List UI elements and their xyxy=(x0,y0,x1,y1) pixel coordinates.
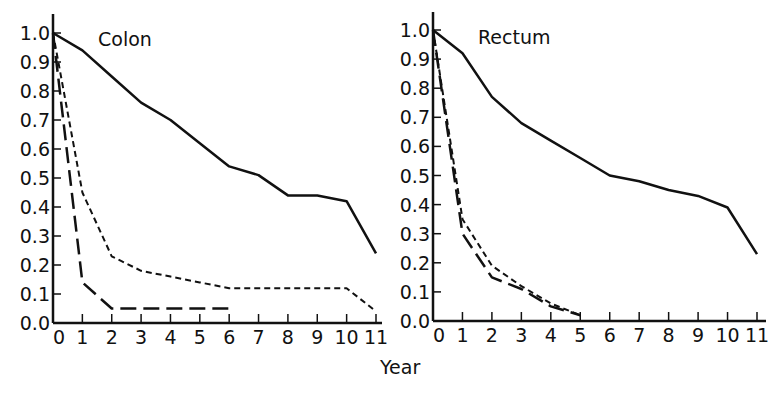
y-tick-label: 0.0 xyxy=(20,312,50,334)
x-tick-label: 8 xyxy=(282,326,294,348)
y-tick-label: 1.0 xyxy=(400,19,430,41)
x-tick-label: 8 xyxy=(663,324,675,346)
chart-title: Colon xyxy=(98,28,152,50)
y-tick-label: 0.3 xyxy=(20,225,50,247)
x-tick-label: 3 xyxy=(135,326,147,348)
series-short-dash-line xyxy=(53,33,376,311)
rectum-chart: 0.00.10.20.30.40.50.60.70.80.91.00123456… xyxy=(400,12,769,346)
x-tick-label: 6 xyxy=(604,324,616,346)
x-tick-label: 7 xyxy=(252,326,264,348)
x-axis-label: Year xyxy=(379,356,420,378)
x-tick-label: 1 xyxy=(456,324,468,346)
y-tick-label: 1.0 xyxy=(20,22,50,44)
y-tick-label: 0.4 xyxy=(20,196,50,218)
y-tick-label: 0.6 xyxy=(20,138,50,160)
y-tick-label: 0.7 xyxy=(20,109,50,131)
x-tick-label: 9 xyxy=(311,326,323,348)
series-solid-line xyxy=(433,30,757,254)
x-tick-label: 11 xyxy=(364,326,388,348)
series-short-dash-line xyxy=(433,30,580,315)
x-tick-label: 4 xyxy=(545,324,557,346)
x-tick-label: 11 xyxy=(745,324,769,346)
y-tick-label: 0.4 xyxy=(400,194,430,216)
x-tick-label: 4 xyxy=(164,326,176,348)
y-tick-label: 0.7 xyxy=(400,106,430,128)
y-tick-label: 0.5 xyxy=(400,165,430,187)
y-tick-label: 0.1 xyxy=(400,281,430,303)
y-tick-label: 0.2 xyxy=(400,252,430,274)
y-tick-label: 0.8 xyxy=(20,80,50,102)
y-tick-label: 0.6 xyxy=(400,135,430,157)
x-tick-label: 2 xyxy=(486,324,498,346)
x-tick-label: 0 xyxy=(433,324,445,346)
y-tick-label: 0.9 xyxy=(400,48,430,70)
colon-chart: 0.00.10.20.30.40.50.60.70.80.91.00123456… xyxy=(20,14,388,348)
x-tick-label: 7 xyxy=(633,324,645,346)
survival-figure: 0.00.10.20.30.40.50.60.70.80.91.00123456… xyxy=(0,0,781,394)
x-tick-label: 9 xyxy=(692,324,704,346)
x-tick-label: 0 xyxy=(53,326,65,348)
x-tick-label: 10 xyxy=(335,326,359,348)
y-tick-label: 0.2 xyxy=(20,254,50,276)
x-tick-label: 2 xyxy=(106,326,118,348)
y-tick-label: 0.3 xyxy=(400,223,430,245)
chart-title: Rectum xyxy=(478,26,550,48)
y-tick-label: 0.1 xyxy=(20,283,50,305)
series-solid-line xyxy=(53,33,376,253)
x-tick-label: 6 xyxy=(223,326,235,348)
x-tick-label: 10 xyxy=(715,324,739,346)
x-tick-label: 3 xyxy=(515,324,527,346)
y-tick-label: 0.9 xyxy=(20,51,50,73)
x-tick-label: 5 xyxy=(574,324,586,346)
series-long-dash-line xyxy=(53,33,229,309)
x-tick-label: 5 xyxy=(194,326,206,348)
y-tick-label: 0.0 xyxy=(400,310,430,332)
y-tick-label: 0.5 xyxy=(20,167,50,189)
x-tick-label: 1 xyxy=(76,326,88,348)
y-tick-label: 0.8 xyxy=(400,77,430,99)
